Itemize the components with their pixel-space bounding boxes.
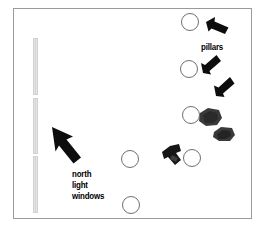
plan-boundary (13, 8, 252, 219)
north-label: north (72, 169, 91, 180)
windows-label: windows (72, 191, 104, 202)
light-label: light (72, 180, 88, 191)
window-middle (33, 98, 38, 154)
pillar-center (121, 150, 139, 168)
floor-plan-diagram: pillars north light windows (0, 0, 265, 237)
pillar-top-right (181, 13, 199, 31)
pillars-label: pillars (201, 42, 223, 53)
window-lower (33, 156, 38, 213)
pillar-bottom (122, 196, 140, 214)
window-upper (33, 38, 38, 95)
pillar-right-low (183, 149, 201, 167)
pillar-lower-right (182, 106, 200, 124)
pillar-mid-right (180, 60, 198, 78)
